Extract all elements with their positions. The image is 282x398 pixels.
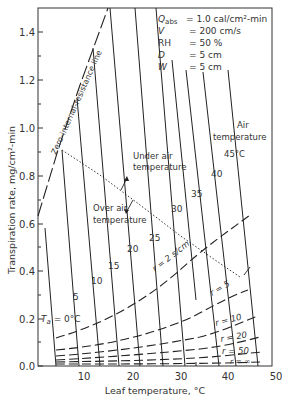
transpiration-chart: 0.0 0.2 0.4 0.6 0.8 1.0 1.2 1.4 10 20 30… [0, 0, 282, 398]
x-axis: 10 20 30 40 50 [78, 371, 282, 382]
ta-label: Ta = 0°C [41, 314, 81, 326]
y-tick-label: 1.2 [19, 75, 35, 86]
x-tick-label: 10 [78, 371, 91, 382]
svg-text:= 200 cm/s: = 200 cm/s [189, 26, 241, 36]
y-tick-label: 0.0 [19, 361, 35, 372]
svg-text:RH: RH [158, 38, 171, 48]
y-tick-label: 0.6 [19, 219, 35, 230]
iso-label-10: 10 [91, 276, 103, 286]
under-air-label-2: temperature [133, 162, 186, 172]
over-air-label-1: Over air [93, 203, 128, 213]
r2-label: r = 2 s/cm [150, 238, 191, 273]
y-tick-label: 1.0 [19, 123, 35, 134]
y-axis-title: Transpiration rate, mg/cm²-min [6, 126, 17, 275]
svg-text:= 1.0 cal/cm²-min: = 1.0 cal/cm²-min [186, 14, 267, 24]
y-tick-label: 0.8 [19, 171, 35, 182]
air-temperature-isotherms [45, 8, 258, 366]
y-tick-label: 0.2 [19, 314, 35, 325]
iso-label-20: 20 [127, 244, 139, 254]
conditions-legend: Qabs = 1.0 cal/cm²-min V = 200 cm/s RH =… [158, 14, 267, 72]
iso-label-25: 25 [149, 233, 160, 243]
x-tick-label: 20 [127, 371, 140, 382]
svg-text:V: V [158, 26, 165, 36]
iso-label-35: 35 [191, 189, 202, 199]
iso-label-15: 15 [108, 261, 119, 271]
x-tick-label: 50 [270, 371, 282, 382]
iso-label-30: 30 [171, 204, 183, 214]
iso-label-5: 5 [73, 292, 79, 302]
air-temp-label-3: 45°C [224, 149, 245, 159]
air-temp-label-2: temperature [213, 132, 266, 142]
y-axis: 0.0 0.2 0.4 0.6 0.8 1.0 1.2 1.4 [19, 27, 43, 372]
r50-label: r = 50 [222, 346, 249, 356]
svg-text:= 5 cm: = 5 cm [189, 62, 222, 72]
x-axis-title: Leaf temperature, °C [105, 385, 206, 396]
x-tick-label: 40 [222, 371, 235, 382]
over-air-label-2: temperature [93, 215, 146, 225]
svg-text:= 5 cm: = 5 cm [189, 50, 222, 60]
zir-label: Zero-internal-resistance line [50, 49, 104, 156]
svg-text:D: D [158, 50, 165, 60]
rinf-label: r = ∞ [230, 357, 250, 366]
x-tick-label: 30 [175, 371, 188, 382]
y-tick-label: 0.4 [19, 266, 35, 277]
iso-label-40: 40 [211, 169, 223, 179]
svg-text:= 50 %: = 50 % [189, 38, 223, 48]
svg-text:W: W [158, 62, 168, 72]
air-temp-label-1: Air [237, 120, 249, 130]
y-tick-label: 1.4 [19, 27, 35, 38]
r10-label: r = 10 [214, 312, 242, 328]
under-air-label-1: Under air [133, 151, 173, 161]
svg-text:Qabs: Qabs [158, 14, 178, 26]
